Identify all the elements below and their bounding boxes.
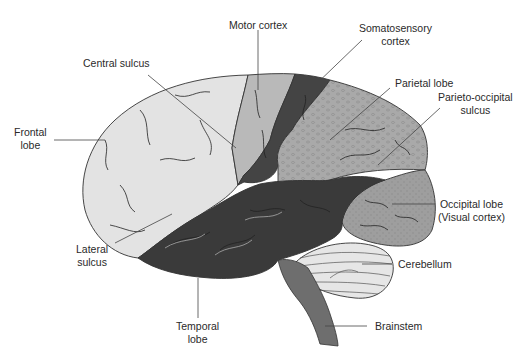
label-line: Parieto-occipital (438, 91, 513, 104)
label-line: sulcus (438, 104, 513, 117)
label-line: cortex (359, 35, 432, 48)
brain-illustration (0, 0, 529, 360)
label-line: lobe (176, 333, 219, 346)
brain-diagram: Frontal lobe Central sulcus Motor cortex… (0, 0, 529, 360)
label-cerebellum: Cerebellum (398, 258, 452, 271)
label-parieto-occipital-sulcus: Parieto-occipital sulcus (438, 91, 513, 117)
label-motor-cortex: Motor cortex (229, 19, 287, 32)
label-line: Frontal (14, 126, 47, 139)
label-line: (Visual cortex) (438, 211, 505, 224)
label-parietal-lobe: Parietal lobe (395, 77, 453, 90)
label-line: Lateral (76, 243, 108, 256)
label-line: Somatosensory (359, 22, 432, 35)
label-line: lobe (14, 139, 47, 152)
label-somatosensory-cortex: Somatosensory cortex (359, 22, 432, 48)
label-occipital-lobe: Occipital lobe (Visual cortex) (438, 198, 505, 224)
label-line: sulcus (76, 256, 108, 269)
label-frontal-lobe: Frontal lobe (14, 126, 47, 152)
label-temporal-lobe: Temporal lobe (176, 320, 219, 346)
label-line: Occipital lobe (438, 198, 505, 211)
label-brainstem: Brainstem (375, 320, 422, 333)
label-central-sulcus: Central sulcus (83, 57, 150, 70)
label-lateral-sulcus: Lateral sulcus (76, 243, 108, 269)
label-line: Temporal (176, 320, 219, 333)
